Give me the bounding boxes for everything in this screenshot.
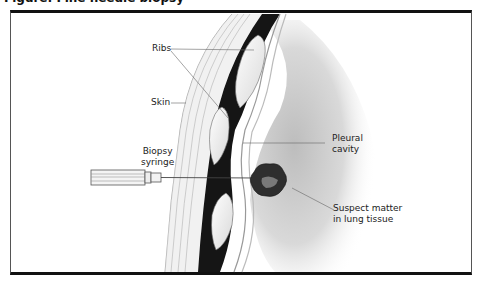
label-pleural-cavity: Pleural cavity [332,133,363,155]
label-pleural-cavity-line1: Pleural [332,133,363,144]
label-suspect-matter-line1: Suspect matter [333,203,402,214]
label-ribs: Ribs [152,43,171,54]
label-suspect-matter-line2: in lung tissue [333,214,402,225]
biopsy-illustration [0,0,484,282]
label-biopsy-syringe-line1: Biopsy [141,146,174,157]
label-skin: Skin [151,97,170,108]
label-biopsy-syringe: Biopsy syringe [141,146,174,168]
label-pleural-cavity-line2: cavity [332,144,363,155]
suspect-mass [250,164,286,197]
label-biopsy-syringe-line2: syringe [141,157,174,168]
label-suspect-matter: Suspect matter in lung tissue [333,203,402,225]
